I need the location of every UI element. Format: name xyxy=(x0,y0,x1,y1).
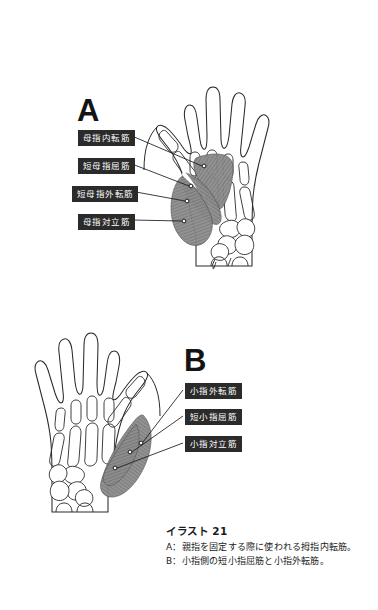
label-flexor-digiti-minimi-brevis: 短小指屈筋 xyxy=(185,409,242,425)
hand-diagram-a xyxy=(132,87,269,269)
label-adductor-pollicis: 母指内転筋 xyxy=(78,130,135,146)
caption-line-b: B：小指側の短小指屈筋と小指外転筋。 xyxy=(166,555,371,569)
panel-letter-a: A xyxy=(77,95,99,126)
label-flexor-pollicis-brevis: 短母指屈筋 xyxy=(78,158,135,174)
panel-letter-b: B xyxy=(184,345,206,376)
label-abductor-digiti-minimi: 小指外転筋 xyxy=(185,383,242,399)
thumb-outline-a xyxy=(144,127,157,170)
caption-title: イラスト 21 xyxy=(166,524,371,539)
label-abductor-pollicis-brevis: 短母指外転筋 xyxy=(72,186,138,202)
thumb-outline-b xyxy=(147,373,160,416)
label-opponens-digiti-minimi: 小指対立筋 xyxy=(185,436,242,452)
anatomy-artwork xyxy=(0,0,378,610)
illustration-page: A B 母指内転筋 短母指屈筋 短母指外転筋 母指対立筋 小指外転筋 短小指屈筋… xyxy=(0,0,378,610)
hand-diagram-b xyxy=(35,333,183,512)
label-opponens-pollicis: 母指対立筋 xyxy=(78,214,135,230)
caption-line-a: A：親指を固定する際に使われる拇指内転筋。 xyxy=(166,541,371,555)
figure-caption: イラスト 21 A：親指を固定する際に使われる拇指内転筋。 B：小指側の短小指屈… xyxy=(166,524,371,568)
